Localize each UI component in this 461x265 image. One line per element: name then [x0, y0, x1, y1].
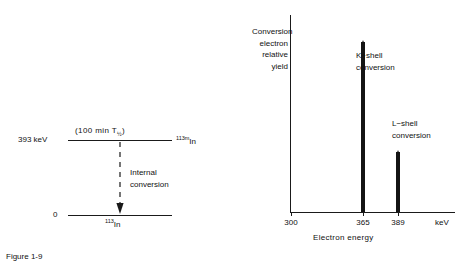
x-axis-tick-389	[398, 212, 399, 216]
energy-level-line-upper	[68, 140, 172, 141]
halflife-text: (100 min T	[75, 126, 117, 135]
nuclide-upper-symbol: In	[189, 137, 196, 146]
nuclide-label-upper: 113mIn	[176, 135, 196, 147]
internal-conversion-label-line1: Internal	[130, 167, 169, 179]
l-shell-conversion-annotation: L−shell conversion	[392, 118, 431, 141]
internal-conversion-label: Internal conversion	[130, 167, 169, 190]
k-shell-annotation-line1: K−shell	[356, 50, 395, 62]
halflife-label: (100 min T½)	[75, 126, 125, 137]
internal-conversion-label-line2: conversion	[130, 179, 169, 191]
ground-level-energy-label: 0	[53, 210, 57, 220]
x-axis-ticklabel-300: 300	[284, 218, 297, 227]
nuclide-upper-mass: 113m	[176, 135, 189, 141]
y-axis-line	[290, 15, 291, 213]
decay-scheme-diagram: 393 keV 0 (100 min T½) 113mIn 113In Inte…	[0, 0, 250, 265]
nuclide-label-ground: 113In	[105, 218, 120, 230]
peak-l-shell-cap	[394, 150, 402, 158]
x-axis-tick-365	[363, 212, 364, 216]
x-axis-label: Electron energy	[313, 233, 374, 243]
x-axis-ticklabel-365: 365	[356, 218, 369, 227]
upper-level-energy-label: 393 keV	[18, 135, 47, 145]
figure-caption: Figure 1-9	[6, 252, 42, 261]
nuclide-lower-mass: 113	[105, 218, 114, 224]
x-axis-ticklabel-389: 389	[391, 218, 404, 227]
energy-level-line-ground	[68, 215, 172, 216]
k-shell-conversion-annotation: K−shell conversion	[356, 50, 395, 73]
y-axis-label: Conversion electron relative yield	[252, 26, 288, 72]
l-shell-annotation-line1: L−shell	[392, 118, 431, 130]
internal-conversion-arrow-icon	[114, 142, 126, 214]
halflife-close-paren: )	[122, 126, 125, 135]
x-axis-unit-label: keV	[435, 218, 449, 228]
nuclide-lower-symbol: In	[114, 220, 121, 229]
x-axis-line	[290, 212, 455, 213]
conversion-electron-spectrum-chart: Conversion electron relative yield Elect…	[250, 0, 461, 265]
l-shell-annotation-line2: conversion	[392, 130, 431, 142]
peak-l-shell	[396, 152, 400, 212]
k-shell-annotation-line2: conversion	[356, 62, 395, 74]
x-axis-tick-300	[291, 212, 292, 216]
peak-k-shell-cap	[359, 40, 367, 48]
